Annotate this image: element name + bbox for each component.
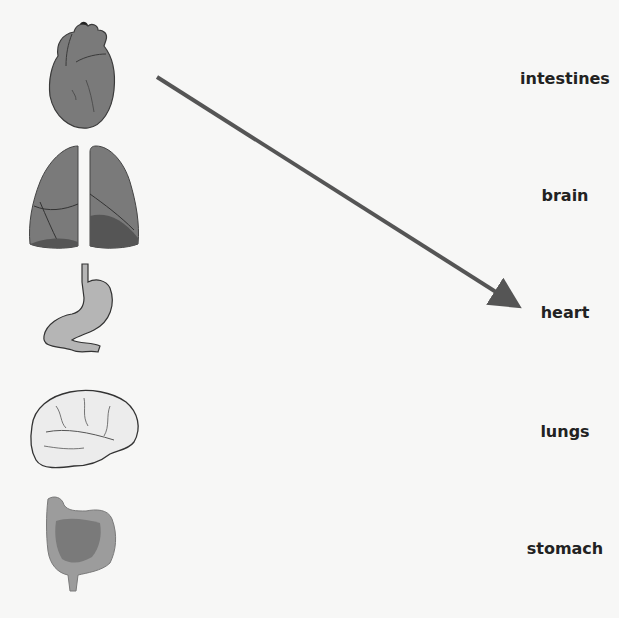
label-stomach[interactable]: stomach <box>515 539 615 558</box>
label-brain[interactable]: brain <box>515 186 615 205</box>
intestines-icon[interactable] <box>42 495 122 595</box>
stomach-icon[interactable] <box>40 262 130 362</box>
label-heart[interactable]: heart <box>515 303 615 322</box>
label-lungs[interactable]: lungs <box>515 422 615 441</box>
heart-icon[interactable] <box>46 20 121 132</box>
brain-icon[interactable] <box>26 386 146 476</box>
lungs-icon[interactable] <box>24 142 144 250</box>
label-intestines[interactable]: intestines <box>515 69 615 88</box>
